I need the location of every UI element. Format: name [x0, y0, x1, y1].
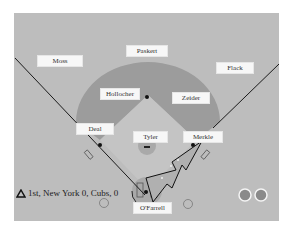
player-label-third-base: Deal [76, 123, 114, 135]
player-label-catcher: O'Farrell [133, 202, 172, 214]
home-dot [144, 190, 148, 194]
on-deck-circle-right [184, 200, 193, 209]
player-label-left-field: Moss [37, 55, 83, 67]
score-text: 1st, New York 0, Cubs, 0 [28, 188, 118, 198]
player-label-first-base: Merkle [183, 131, 223, 143]
player-label-shortstop: Hollocher [100, 88, 140, 100]
on-deck-circle-left [100, 199, 109, 208]
player-label-second-base: Zeider [172, 92, 210, 104]
player-label-center-field: Paskert [126, 45, 168, 57]
scoreboard: 1st, New York 0, Cubs, 0 [16, 188, 118, 198]
triangle-up-icon [16, 189, 26, 198]
third-base-dot [98, 143, 102, 147]
coach-box-right [201, 150, 210, 159]
out-indicator-1 [239, 189, 251, 201]
coach-box-left [84, 150, 93, 159]
second-base-dot [145, 95, 149, 99]
pitchers-rubber [144, 146, 150, 148]
out-indicator-2 [255, 189, 267, 201]
player-label-right-field: Flack [216, 62, 254, 74]
player-label-pitcher: Tyler [133, 131, 168, 143]
